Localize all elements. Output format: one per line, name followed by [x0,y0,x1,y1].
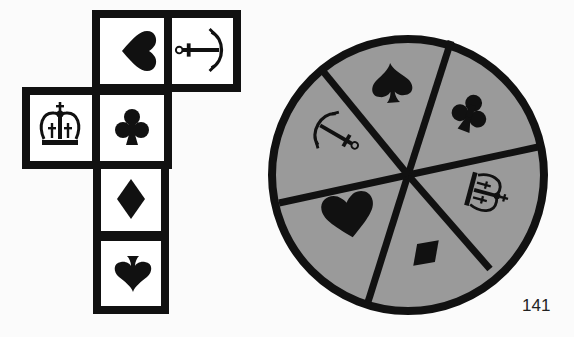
symbol-wheel [272,39,544,311]
cube-net [0,0,574,337]
page-number: 141 [522,296,550,316]
